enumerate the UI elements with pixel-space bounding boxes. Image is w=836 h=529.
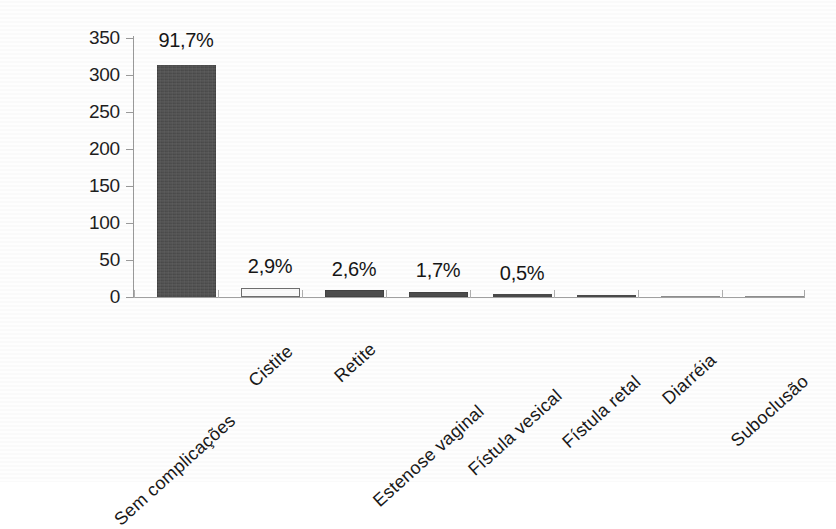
y-axis-tick-label: 300	[64, 64, 120, 86]
bar	[157, 65, 216, 297]
y-axis-tick-label: 250	[64, 101, 120, 123]
category-label: Suboclusão	[727, 371, 813, 452]
category-label: Retite	[330, 339, 380, 387]
y-axis-tick-label: 200	[64, 138, 120, 160]
data-label: 1,7%	[416, 259, 460, 282]
x-axis-line	[133, 297, 805, 298]
bar	[493, 294, 552, 297]
data-label: 0,5%	[500, 262, 544, 285]
y-axis-tick-label: 100	[64, 212, 120, 234]
bar	[325, 290, 384, 297]
plot-area	[133, 38, 805, 297]
bar	[745, 296, 804, 297]
y-axis-tick-label: 350	[64, 27, 120, 49]
category-label: Diarréia	[658, 350, 721, 409]
bar	[661, 296, 720, 297]
bar-texture	[157, 65, 216, 297]
data-label: 91,7%	[158, 29, 213, 52]
data-label: 2,9%	[248, 255, 292, 278]
category-label: Sem complicações	[110, 410, 240, 529]
bar	[577, 295, 636, 297]
category-label: Fístula retal	[558, 372, 645, 453]
y-axis-tick-label: 150	[64, 175, 120, 197]
y-axis-tick-label: 0	[64, 286, 120, 308]
category-label: Estenose vaginal	[369, 401, 489, 512]
bar	[241, 288, 300, 297]
bar	[409, 292, 468, 297]
category-label: Cistite	[245, 341, 298, 391]
data-label: 2,6%	[332, 258, 376, 281]
category-label: Fístula vesical	[464, 385, 566, 480]
y-axis-tick-label: 50	[64, 249, 120, 271]
